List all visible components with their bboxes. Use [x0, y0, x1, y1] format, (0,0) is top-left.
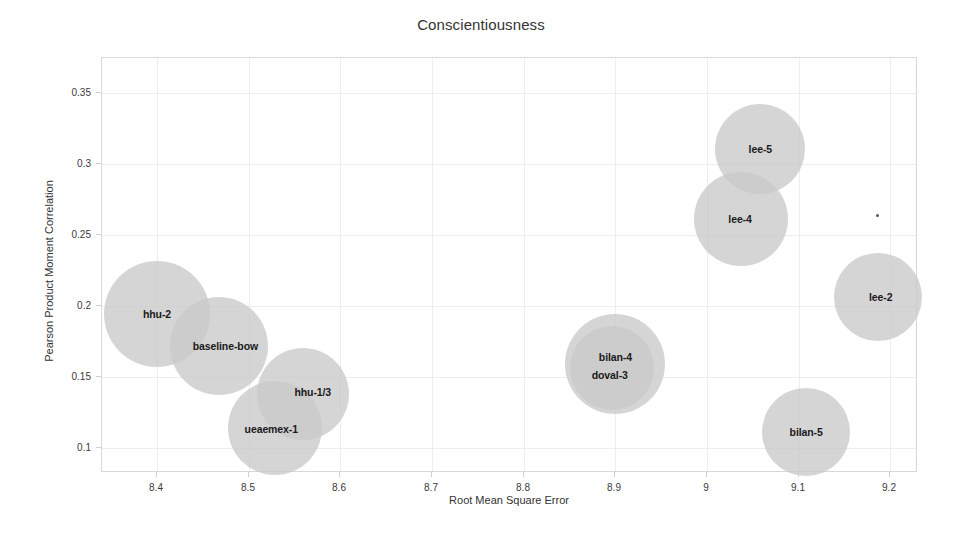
x-tick-label-8: 9.2 — [882, 482, 896, 493]
y-tickmark-4 — [96, 376, 101, 377]
page-title: Conscientiousness — [0, 16, 962, 33]
x-tick-label-2: 8.6 — [332, 482, 346, 493]
x-tick-label-1: 8.5 — [241, 482, 255, 493]
x-tickmark-2 — [339, 472, 340, 477]
bubble-label-lee-4: lee-4 — [728, 213, 751, 225]
gridline-horizontal-2 — [102, 235, 916, 236]
bubble-label-hhu-1-3: hhu-1/3 — [294, 386, 331, 398]
x-tickmark-1 — [248, 472, 249, 477]
chart-screenshot: Conscientiousness hhu-2baseline-bowhhu-1… — [0, 0, 962, 534]
bubble-label-ueaemex-1: ueaemex-1 — [245, 423, 298, 435]
bubble-label-bilan-4: bilan-4 — [599, 351, 632, 363]
gridline-vertical-6 — [707, 58, 708, 471]
x-tick-label-5: 8.9 — [607, 482, 621, 493]
gridline-vertical-3 — [432, 58, 433, 471]
gridline-vertical-4 — [524, 58, 525, 471]
x-tick-label-4: 8.8 — [516, 482, 530, 493]
x-tick-label-0: 8.4 — [149, 482, 163, 493]
bubble-label-bilan-5: bilan-5 — [790, 426, 823, 438]
y-tick-label-3: 0.2 — [33, 300, 91, 311]
x-tickmark-0 — [156, 472, 157, 477]
x-tickmark-3 — [431, 472, 432, 477]
y-axis-title: Pearson Product Moment Correlation — [43, 121, 55, 421]
bubble-label-baseline-bow: baseline-bow — [193, 340, 258, 352]
y-tick-label-0: 0.35 — [33, 87, 91, 98]
y-tick-label-2: 0.25 — [33, 229, 91, 240]
x-tick-label-6: 9 — [703, 482, 709, 493]
bubble-label-lee-2: lee-2 — [869, 291, 892, 303]
y-tickmark-0 — [96, 92, 101, 93]
y-tick-label-5: 0.1 — [33, 442, 91, 453]
bubble-label-doval-3: doval-3 — [592, 369, 628, 381]
x-tickmark-7 — [798, 472, 799, 477]
y-tick-label-1: 0.3 — [33, 158, 91, 169]
y-tick-label-4: 0.15 — [33, 371, 91, 382]
y-tickmark-2 — [96, 234, 101, 235]
x-tickmark-4 — [523, 472, 524, 477]
x-tickmark-8 — [889, 472, 890, 477]
y-tickmark-3 — [96, 305, 101, 306]
x-tickmark-5 — [614, 472, 615, 477]
gridline-horizontal-0 — [102, 93, 916, 94]
x-tick-label-3: 8.7 — [424, 482, 438, 493]
y-tickmark-1 — [96, 163, 101, 164]
bubble-label-lee-5: lee-5 — [749, 143, 772, 155]
x-axis-title: Root Mean Square Error — [101, 494, 917, 506]
bubble-label-hhu-2: hhu-2 — [143, 308, 171, 320]
x-tickmark-6 — [706, 472, 707, 477]
bubble-doval-3[interactable] — [570, 326, 654, 410]
y-tickmark-5 — [96, 447, 101, 448]
plot-area: hhu-2baseline-bowhhu-1/3ueaemex-1bilan-4… — [101, 57, 917, 472]
data-point-marker[interactable] — [876, 214, 879, 217]
x-tick-label-7: 9.1 — [791, 482, 805, 493]
